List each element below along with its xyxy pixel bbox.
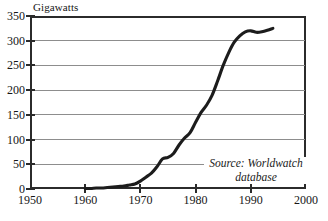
source-line-2: database [235,171,277,183]
source-leader-line [176,164,203,165]
y-axis-unit-label: Gigawatts [33,0,79,14]
x-tick-label-1970: 1970 [128,193,152,207]
x-tick-label-1980: 1980 [184,193,208,207]
y-tick-label-350: 350 [7,10,25,22]
y-tick-label-200: 200 [7,84,25,96]
y-tick-label-50: 50 [13,158,25,170]
source-line-1: Source: Worldwatch [209,157,302,169]
y-tick-label-300: 300 [7,35,25,47]
y-tick-label-100: 100 [7,134,25,146]
y-tick-label-150: 150 [7,109,25,121]
x-tick-label-1960: 1960 [73,193,97,207]
chart-container: Gigawatts 050100150200250300350 19501960… [0,0,328,221]
x-tick-label-2000: 2000 [294,193,318,207]
y-tick-label-250: 250 [7,59,25,71]
x-tick-label-1990: 1990 [239,193,263,207]
x-tick-label-1950: 1950 [18,193,42,207]
source-annotation: Source: Worldwatch database [204,157,308,184]
